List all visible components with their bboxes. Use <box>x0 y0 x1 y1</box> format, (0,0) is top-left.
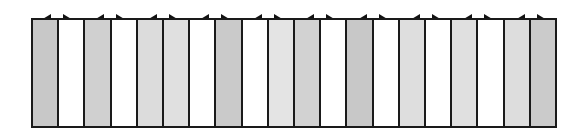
panel-8 <box>216 20 242 126</box>
double-arrow-icon <box>92 6 128 14</box>
double-arrow-icon <box>460 6 496 14</box>
arrow-row <box>0 0 582 20</box>
double-arrow-icon <box>355 6 391 14</box>
panel-16 <box>426 20 452 126</box>
panel-9 <box>243 20 269 126</box>
panel-1 <box>33 20 59 126</box>
panel-strip <box>31 18 557 128</box>
panel-7 <box>190 20 216 126</box>
double-arrow-icon <box>145 6 181 14</box>
double-arrow-icon <box>513 6 549 14</box>
panel-18 <box>478 20 504 126</box>
panel-20 <box>531 20 555 126</box>
panel-2 <box>59 20 85 126</box>
double-arrow-icon <box>302 6 338 14</box>
panel-12 <box>321 20 347 126</box>
double-arrow-icon <box>197 6 233 14</box>
panel-10 <box>269 20 295 126</box>
panel-6 <box>164 20 190 126</box>
double-arrow-icon <box>250 6 286 14</box>
panel-13 <box>347 20 373 126</box>
double-arrow-icon <box>408 6 444 14</box>
panel-19 <box>505 20 531 126</box>
panel-15 <box>400 20 426 126</box>
panel-14 <box>374 20 400 126</box>
panel-5 <box>138 20 164 126</box>
panel-4 <box>112 20 138 126</box>
double-arrow-icon <box>39 6 75 14</box>
panel-11 <box>295 20 321 126</box>
panel-17 <box>452 20 478 126</box>
panel-3 <box>85 20 111 126</box>
